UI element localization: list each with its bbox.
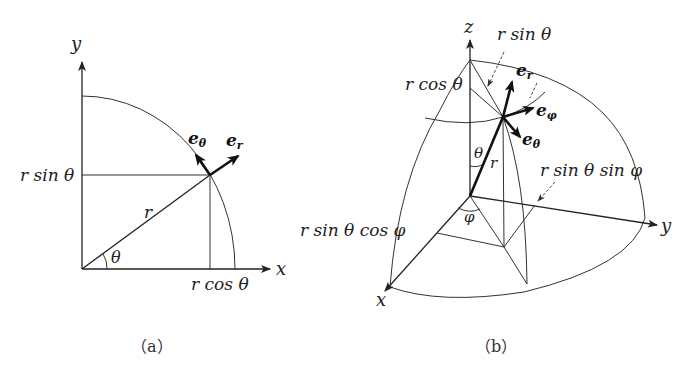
figure-canvas: y x r θ r sin θ r cos θ eθ er <box>0 0 686 380</box>
r-sin-theta-pointer <box>488 52 504 86</box>
e-theta-vector <box>196 155 210 175</box>
caption-b: （b） <box>475 337 517 356</box>
r-cos-theta-segment <box>470 88 503 117</box>
quarter-arc <box>82 96 235 269</box>
panel-a-polar-diagram: y x r θ r sin θ r cos θ eθ er <box>20 33 286 294</box>
xz-meridian-arc <box>390 60 470 287</box>
r-sin-theta-sin-phi-label: r sin θ sin φ <box>540 160 642 180</box>
r-sin-theta-segment <box>470 60 503 117</box>
e-phi-vector <box>503 108 533 117</box>
theta-angle-arc <box>103 254 107 269</box>
y-axis-label-3d: y <box>660 215 672 236</box>
e-r-vector <box>210 156 238 175</box>
r-sin-theta-cos-phi-label: r sin θ cos φ <box>300 220 406 240</box>
z-axis-label: z <box>463 16 474 37</box>
x-projection-line <box>437 233 504 247</box>
e-r-label: er <box>226 130 244 152</box>
r-sin-theta-label: r sin θ <box>20 165 74 185</box>
r-cos-theta-label: r cos θ <box>191 274 249 294</box>
radius-line <box>82 175 210 269</box>
r-cos-theta-label-3d: r cos θ <box>405 74 463 94</box>
e-phi-label: eφ <box>536 100 557 122</box>
e-theta-vector-3d <box>503 117 520 137</box>
projection-to-arc <box>504 247 527 284</box>
y-axis-label: y <box>70 33 82 54</box>
xy-projection-radius <box>470 196 504 247</box>
e-theta-label-3d: eθ <box>522 129 541 151</box>
e-theta-label: eθ <box>188 128 207 150</box>
y-projection-line <box>504 205 535 247</box>
r-sin-theta-sin-phi-pointer <box>538 182 555 201</box>
e-r-dash <box>530 83 537 98</box>
e-r-vector-3d <box>503 82 512 117</box>
e-r-label-3d: er <box>516 60 534 82</box>
x-axis-label-3d: x <box>376 289 386 310</box>
r-label: r <box>144 202 153 222</box>
r-sin-theta-label-3d: r sin θ <box>497 24 551 44</box>
phi-label: φ <box>464 208 475 226</box>
theta-label: θ <box>111 248 121 267</box>
r-label-3d: r <box>490 154 498 172</box>
x-axis-label: x <box>276 258 286 279</box>
caption-a: （a） <box>131 337 173 356</box>
latitude-arc <box>425 92 545 123</box>
y-axis-3d <box>470 196 657 225</box>
panel-b-spherical-diagram: z y x r sin θ r cos θ θ r φ r sin θ sin … <box>300 16 672 310</box>
theta-label-3d: θ <box>474 144 483 162</box>
vertical-projection <box>503 117 504 247</box>
x-axis-3d <box>385 196 470 291</box>
